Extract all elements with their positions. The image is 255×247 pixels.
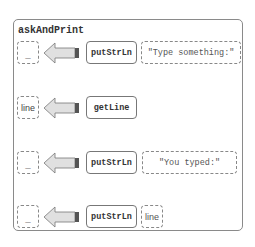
result-slot: line [17,96,39,119]
result-label: _ [25,155,30,171]
bind-arrow-icon [43,152,81,174]
bind-arrow-icon [43,42,81,64]
function-box: putStrLn [86,205,137,228]
action-row-3: _ putStrLn "You typed:" [0,151,255,175]
function-box: putStrLn [86,41,137,64]
result-label: _ [25,45,30,61]
result-slot: _ [17,205,39,228]
result-label: _ [25,209,30,225]
action-row-4: _ putStrLn line [0,205,255,229]
result-label: line [21,103,35,113]
argument-box: "Type something:" [141,41,241,64]
action-row-2: line getLine [0,96,255,120]
bind-arrow-icon [43,206,81,228]
diagram-title: askAndPrint [18,25,84,36]
bind-arrow-icon [43,97,81,119]
argument-box: line [141,205,163,228]
function-box: getLine [86,96,137,119]
result-slot: _ [17,41,39,64]
function-box: putStrLn [86,151,137,174]
argument-box: "You typed:" [142,151,237,174]
result-slot: _ [17,151,39,174]
action-row-1: _ putStrLn "Type something:" [0,41,255,65]
